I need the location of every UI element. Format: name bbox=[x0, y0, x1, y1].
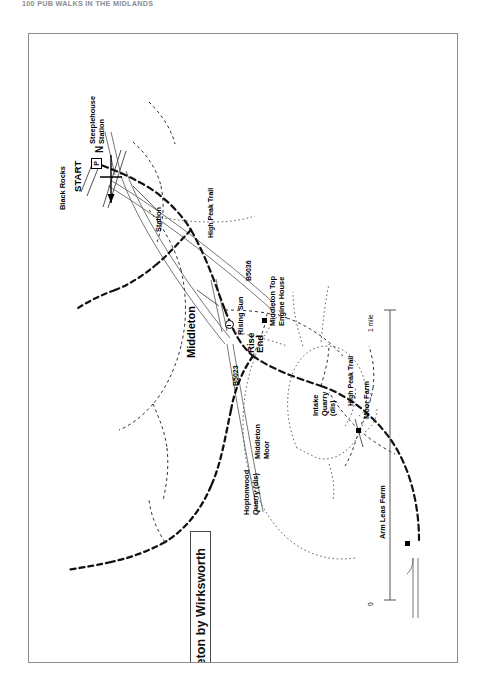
label-high-peak-trail-north: High Peak Trail bbox=[207, 188, 216, 238]
label-station: Station bbox=[155, 207, 164, 232]
building-symbol-arm-leas-farm bbox=[405, 541, 410, 546]
label-high-peak-trail-south: High Peak Trail bbox=[347, 356, 356, 406]
label-middleton: Middleton bbox=[187, 306, 196, 358]
map-rotation-wrapper: 15. Middleton by Wirksworth N 0 1 mile P bbox=[29, 34, 457, 662]
label-moor-farm: Moor Farm bbox=[363, 381, 372, 419]
building-symbol-moor-farm bbox=[356, 428, 361, 433]
scale-label-one-mile: 1 mile bbox=[367, 314, 376, 332]
compass-rose: N bbox=[95, 145, 125, 207]
map-frame: 15. Middleton by Wirksworth N 0 1 mile P bbox=[28, 33, 458, 663]
map-title-box: 15. Middleton by Wirksworth bbox=[190, 531, 211, 663]
label-hoptonwood-quarry: Hoptonwood Quarry (dis) bbox=[243, 470, 260, 515]
label-black-rocks: Black Rocks bbox=[59, 166, 68, 210]
label-arm-leas-farm: Arm Leas Farm bbox=[379, 485, 388, 539]
scale-label-zero: 0 bbox=[367, 602, 376, 606]
compass-north-label: N bbox=[94, 146, 105, 153]
map-title: 15. Middleton by Wirksworth bbox=[194, 548, 208, 663]
label-middleton-moor: Middleton Moor bbox=[254, 424, 271, 459]
building-symbol-engine-house bbox=[262, 318, 267, 323]
north-arrow-icon bbox=[95, 145, 125, 207]
parking-symbol: P bbox=[91, 158, 102, 169]
pub-symbol-rising-sun bbox=[225, 320, 234, 329]
label-rising-sun: Rising Sun bbox=[237, 296, 246, 335]
running-head: 100 PUB WALKS IN THE MIDLANDS bbox=[22, 0, 282, 9]
scale-bar: 0 1 mile bbox=[379, 304, 401, 604]
label-road-b5023: B5023 bbox=[232, 365, 241, 386]
label-start: START bbox=[74, 161, 83, 192]
label-middleton-top-engine-house: Middleton Top Engine House bbox=[269, 276, 286, 326]
label-road-b5036: B5036 bbox=[245, 260, 254, 281]
label-rise-end: Rise End bbox=[247, 333, 264, 353]
label-steeplehouse-station: Steeplehouse Station bbox=[89, 96, 106, 144]
label-intake-quarry: Intake Quarry (dis) bbox=[312, 392, 338, 416]
